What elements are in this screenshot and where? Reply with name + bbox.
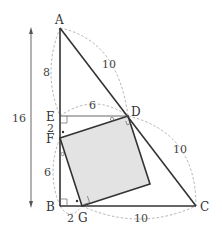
right-angle-E (60, 116, 67, 123)
arc-AE (51, 28, 60, 116)
height-arrow (29, 27, 33, 208)
dot-mark-G (76, 200, 78, 202)
length-AD: 10 (102, 58, 116, 71)
arrow-down-icon (29, 201, 33, 208)
arc-FB (53, 138, 60, 206)
length-BG: 2 (67, 212, 74, 225)
point-label-A: A (54, 13, 64, 27)
geometry-diagram: 16 A E F B G D C 8 10 6 10 2 6 2 10 (0, 0, 222, 235)
circle-mark-F (61, 152, 64, 155)
length-ED: 6 (89, 99, 96, 112)
label-total-height: 16 (12, 112, 26, 125)
point-label-C: C (200, 200, 209, 214)
length-AE: 8 (43, 66, 50, 79)
length-DC: 10 (173, 143, 187, 156)
dot-mark-F (62, 131, 64, 133)
arrow-up-icon (29, 27, 33, 34)
point-label-D: D (131, 105, 141, 119)
point-label-B: B (46, 200, 55, 214)
shaded-square (60, 116, 150, 206)
length-GC: 10 (134, 212, 148, 225)
length-EF: 2 (47, 122, 54, 135)
length-FB: 6 (44, 166, 51, 179)
right-angle-B (60, 199, 67, 206)
point-label-G: G (78, 211, 88, 225)
circle-mark-D (110, 117, 113, 120)
